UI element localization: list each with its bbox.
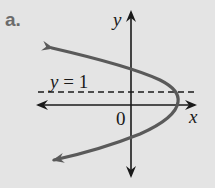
asymptote-eq: = 1 [58, 71, 88, 92]
x-axis-label: x [188, 106, 198, 127]
asymptote-var: y [48, 71, 59, 92]
y-axis-label: y [111, 9, 122, 30]
part-label: a. [5, 9, 21, 30]
origin-label: 0 [116, 108, 126, 129]
graph-figure: a. y x 0 y = 1 [0, 0, 215, 188]
parabola-curve [52, 48, 178, 160]
asymptote-label: y = 1 [48, 71, 88, 92]
